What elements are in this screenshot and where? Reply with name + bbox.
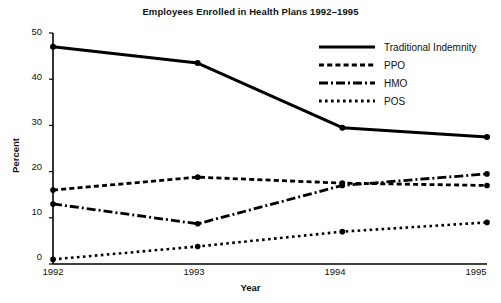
legend-item-ppo: PPO — [318, 56, 498, 74]
data-point — [50, 44, 56, 50]
legend-item-traditional-indemnity: Traditional Indemnity — [318, 38, 498, 56]
data-point — [484, 134, 490, 140]
data-point — [195, 174, 201, 180]
legend-swatch-dashed-icon — [318, 59, 376, 71]
data-point — [340, 183, 346, 189]
legend-swatch-dotted-icon — [318, 95, 376, 107]
legend-label-traditional-indemnity: Traditional Indemnity — [376, 42, 476, 53]
data-point — [50, 187, 56, 193]
legend-item-hmo: HMO — [318, 74, 498, 92]
data-point — [484, 220, 490, 226]
legend-item-pos: POS — [318, 92, 498, 110]
legend-label-pos: POS — [376, 96, 405, 107]
legend-swatch-solid-icon — [318, 41, 376, 53]
chart-container: Employees Enrolled in Health Plans 1992–… — [0, 0, 501, 303]
legend-swatch-dashdot-icon — [318, 77, 376, 89]
data-point — [340, 229, 346, 235]
series-line-pos — [53, 222, 487, 259]
data-point — [484, 183, 490, 189]
data-point — [195, 60, 201, 66]
legend-label-hmo: HMO — [376, 78, 407, 89]
chart-legend: Traditional Indemnity PPO HMO POS — [318, 38, 498, 110]
data-point — [339, 125, 345, 131]
data-point — [484, 171, 490, 177]
data-point — [50, 201, 56, 207]
data-point — [195, 244, 201, 250]
data-point — [195, 221, 201, 227]
data-point — [50, 257, 56, 263]
legend-label-ppo: PPO — [376, 60, 405, 71]
